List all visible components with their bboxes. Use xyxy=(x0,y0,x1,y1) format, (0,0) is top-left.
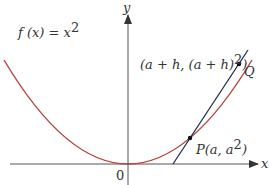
point-q-coords-label: (a + h, (a + h)2) xyxy=(140,52,247,72)
parabola-secant-diagram: f (x) = x2 y x 0 (a + h, (a + h)2) Q P(a… xyxy=(0,0,269,185)
origin-label: 0 xyxy=(116,168,124,183)
y-axis-label: y xyxy=(122,0,131,15)
function-label: f (x) = x2 xyxy=(17,20,79,40)
point-q-label: Q xyxy=(244,64,255,79)
x-axis-label: x xyxy=(261,156,269,171)
point-p-label: P(a, a2) xyxy=(195,137,247,157)
point-p xyxy=(188,136,192,140)
